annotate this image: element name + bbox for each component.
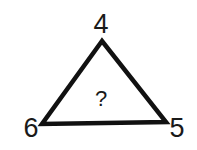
triangle-shape xyxy=(42,41,166,124)
center-unknown-label: ? xyxy=(95,86,107,111)
bottom-left-vertex-label: 6 xyxy=(23,113,38,143)
triangle-diagram: 4 6 5 ? xyxy=(0,0,197,150)
bottom-right-vertex-label: 5 xyxy=(169,113,184,143)
number-puzzle-diagram: 4 6 5 ? xyxy=(0,0,197,150)
top-vertex-label: 4 xyxy=(93,9,108,39)
